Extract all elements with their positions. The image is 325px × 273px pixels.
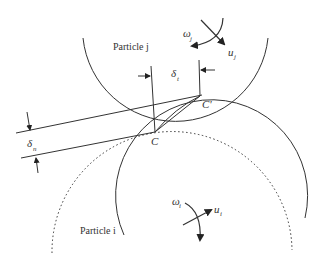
omega-i-subscript: i (179, 202, 181, 210)
u-i-velocity-arrow (183, 210, 211, 225)
u-i-subscript: i (220, 210, 222, 218)
normal-line-lower (21, 132, 155, 158)
delta-n-arrow-bottom (36, 158, 38, 173)
contact-point-cprime-label: C' (202, 98, 212, 110)
particle-i-label: Particle i (80, 225, 116, 236)
u-j-velocity-arrow (201, 20, 224, 44)
normal-line-upper (16, 95, 202, 133)
diagram-canvas: Particle j Particle i ω j u j ω i u i δ … (0, 0, 325, 273)
tangential-ref-line-right (199, 60, 200, 96)
omega-j-rotation-arrow (192, 18, 223, 46)
delta-t-subscript: t (177, 75, 180, 83)
delta-n-arrow-top (27, 112, 30, 130)
particle-i-displaced-outline (116, 100, 308, 235)
tangential-ref-line-left (151, 66, 155, 132)
u-j-subscript: j (233, 53, 236, 61)
omega-i-rotation-arrow (185, 203, 200, 240)
delta-n-subscript: n (33, 145, 37, 153)
particle-j-label: Particle j (113, 41, 149, 52)
omega-j-subscript: j (189, 35, 192, 43)
particle-contact-diagram: Particle j Particle i ω j u j ω i u i δ … (0, 0, 325, 273)
particle-j-outline (83, 38, 268, 121)
contact-point-c-label: C (151, 135, 159, 147)
